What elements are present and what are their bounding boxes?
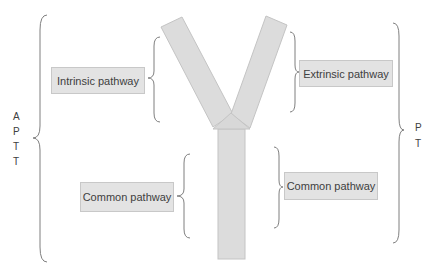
coagulation-diagram-shapes [0,0,432,277]
common-stem [218,129,245,259]
aptt-letter-a: A [13,111,20,122]
aptt-letter-t2: T [13,156,19,167]
common-pathway-left-label: Common pathway [80,182,174,212]
extrinsic-pathway-label: Extrinsic pathway [299,60,393,87]
extrinsic-brace [290,32,299,112]
intrinsic-arm [161,17,233,127]
intrinsic-pathway-label: Intrinsic pathway [51,67,145,94]
common-right-brace [274,147,283,228]
common-left-brace [177,154,190,238]
aptt-letter-p: P [13,126,20,137]
aptt-brace [33,15,47,262]
pt-letter-p: P [415,122,422,133]
intrinsic-brace [148,37,160,122]
aptt-letter-t1: T [13,141,19,152]
common-pathway-right-label: Common pathway [284,172,378,200]
pt-letter-t: T [415,138,421,149]
pt-brace [393,23,404,243]
extrinsic-arm [231,16,287,128]
